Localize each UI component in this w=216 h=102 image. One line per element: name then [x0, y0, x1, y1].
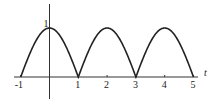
curve — [21, 28, 194, 77]
chart: -1123451 t — [0, 0, 216, 102]
x-tick-label: -1 — [15, 79, 23, 90]
x-tick-label: 4 — [162, 79, 167, 90]
x-tick-label: 3 — [133, 79, 138, 90]
y-tick-label: 1 — [44, 18, 49, 29]
x-axis-label: t — [204, 67, 207, 78]
x-tick-label: 1 — [75, 79, 80, 90]
x-tick-label: 5 — [191, 79, 196, 90]
x-tick-label: 2 — [104, 79, 109, 90]
